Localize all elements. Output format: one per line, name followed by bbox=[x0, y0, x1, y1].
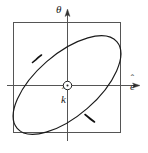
out-of-page-axis-label: ˆ k bbox=[61, 94, 66, 105]
theta-hat-accent: ˆ bbox=[56, 0, 61, 7]
figure-container: ˆ θ ˆ e ˆ k bbox=[0, 0, 148, 153]
vertical-axis-label: ˆ θ bbox=[56, 4, 61, 15]
horizontal-axis-label: ˆ e bbox=[130, 81, 135, 92]
ellipse-diagram bbox=[0, 0, 148, 153]
e-hat-accent: ˆ bbox=[130, 74, 135, 84]
ellipse-direction-arrow-lower-right bbox=[85, 115, 95, 123]
k-hat-accent: ˆ bbox=[61, 87, 66, 97]
k-hat-glyph: ˆ k bbox=[61, 94, 66, 105]
theta-hat-glyph: ˆ θ bbox=[56, 4, 61, 15]
e-hat-glyph: ˆ e bbox=[130, 81, 135, 92]
ellipse-direction-arrow-upper-left bbox=[33, 55, 42, 63]
out-of-page-dot-icon bbox=[67, 85, 69, 87]
